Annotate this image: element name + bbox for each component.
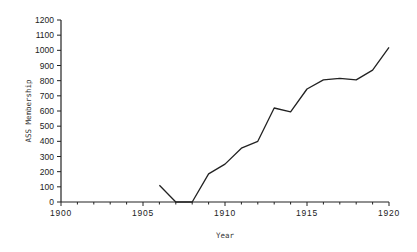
x-tick-label: 1900 <box>50 208 72 218</box>
y-tick-label: 1000 <box>35 45 54 55</box>
y-tick-label: 700 <box>40 91 54 101</box>
y-tick-label: 1200 <box>35 15 54 25</box>
y-tick-label: 1100 <box>36 30 55 40</box>
y-tick-label: 300 <box>40 152 54 162</box>
y-tick-label: 900 <box>40 61 54 71</box>
y-axis: 0100200300400500600700800900100011001200 <box>35 15 61 207</box>
y-tick-label: 500 <box>40 121 54 131</box>
y-tick-label: 0 <box>49 197 54 207</box>
x-tick-label: 1915 <box>296 208 318 218</box>
y-axis-title: ASS Membership <box>24 79 33 143</box>
membership-line <box>159 47 389 202</box>
y-tick-label: 800 <box>40 76 54 86</box>
y-tick-label: 400 <box>40 136 54 146</box>
x-tick-label: 1910 <box>214 208 236 218</box>
line-chart: 0100200300400500600700800900100011001200… <box>0 0 417 252</box>
y-tick-label: 600 <box>40 106 54 116</box>
x-axis: 19001905191019151920 <box>50 202 400 218</box>
x-axis-title: Year <box>216 231 235 240</box>
x-tick-label: 1905 <box>132 208 154 218</box>
x-tick-label: 1920 <box>378 208 400 218</box>
y-tick-label: 100 <box>40 182 54 192</box>
y-tick-label: 200 <box>40 167 54 177</box>
